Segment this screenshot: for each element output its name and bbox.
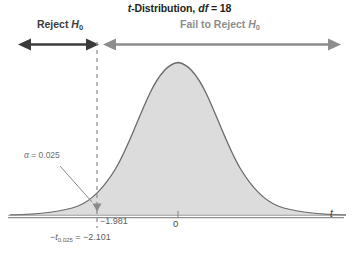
reject-label-text: Reject <box>37 18 71 30</box>
fail-label-text: Fail to Reject <box>180 18 248 30</box>
alpha-value: = 0.025 <box>29 150 60 160</box>
critical-value-tick-label: −1.981 <box>100 216 128 226</box>
zero-tick-label: 0 <box>173 218 178 229</box>
title-df-symbol: df <box>198 2 208 14</box>
reject-region-arrow <box>18 39 99 51</box>
alpha-annotation: α = 0.025 <box>24 150 60 160</box>
x-axis-label: t <box>330 208 333 219</box>
t-critical-subscript: 0.025 <box>58 237 73 243</box>
t-critical-annotation: −t0.025 = −2.101 <box>50 232 111 242</box>
chart-title: t-Distribution, df = 18 <box>0 2 359 14</box>
fail-to-reject-region-label: Fail to Reject H0 <box>110 18 330 30</box>
fail-to-reject-region-arrow <box>103 39 341 51</box>
distribution-shaded-area <box>10 63 346 216</box>
reject-label-subscript: 0 <box>79 23 83 32</box>
title-df-value: = 18 <box>211 2 231 14</box>
reject-label-h-symbol: H <box>71 18 79 30</box>
alpha-leader-line <box>60 166 92 202</box>
reject-region-label: Reject H0 <box>22 18 98 30</box>
fail-label-subscript: 0 <box>256 23 260 32</box>
t-critical-value: = −2.101 <box>73 232 111 242</box>
t-distribution-figure <box>0 0 359 260</box>
fail-label-h-symbol: H <box>248 18 256 30</box>
title-distribution-text: -Distribution, <box>131 2 195 14</box>
